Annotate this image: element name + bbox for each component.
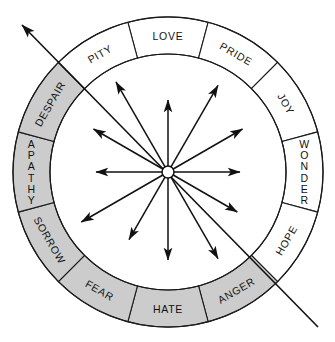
segment-label-apathy: APATHY [28,138,36,206]
segment-label-hate: HATE [153,303,183,315]
svg-text:Y: Y [28,194,35,206]
svg-text:H: H [28,183,36,195]
radial-arrow-240 [81,175,162,222]
center-hub [162,166,174,178]
svg-text:E: E [301,183,308,195]
svg-text:P: P [28,149,35,161]
radial-arrow-120 [173,175,237,212]
svg-text:A: A [28,138,35,150]
segment-label-wonder: WONDER [299,138,309,206]
emotion-wheel-figure: LOVEPRIDEJOYWONDERHOPEANGERHATEFEARSORRO… [0,0,335,342]
svg-text:W: W [299,138,309,150]
segment-label-love: LOVE [153,30,184,42]
radial-arrow-60 [173,129,242,169]
svg-text:T: T [28,172,35,184]
svg-text:N: N [301,160,309,172]
emotion-wheel-diagram: LOVEPRIDEJOYWONDERHOPEANGERHATEFEARSORRO… [0,0,335,342]
radial-arrow-30 [171,85,218,166]
hub-circle [162,166,174,178]
svg-text:R: R [301,194,309,206]
radial-arrow-210 [129,177,165,239]
radial-arrow-330 [116,82,165,167]
svg-text:A: A [28,160,35,172]
radial-arrow-300 [94,129,163,169]
svg-text:D: D [301,172,309,184]
svg-text:O: O [300,149,309,161]
